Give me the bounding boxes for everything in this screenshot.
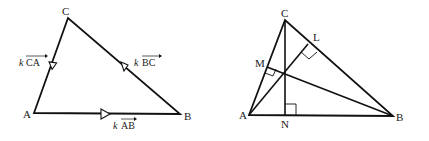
left-vertex-a-label: A <box>23 108 31 120</box>
left-triangle <box>34 18 180 114</box>
svg-text:k: k <box>134 57 139 68</box>
right-triangle-figure: C A B L M N <box>239 7 403 130</box>
svg-text:BC: BC <box>142 57 156 68</box>
foot-m-label: M <box>255 57 265 69</box>
vector-arrow-ca-icon <box>45 54 48 58</box>
right-angle-n-icon <box>285 104 296 115</box>
svg-text:CA: CA <box>26 57 41 68</box>
vector-arrow-bc-icon <box>159 54 162 58</box>
foot-n-label: N <box>281 118 289 130</box>
vector-label-bc: k BC <box>134 54 162 68</box>
left-vertex-c-label: C <box>62 5 69 17</box>
right-vertex-c-label: C <box>281 7 288 19</box>
svg-text:k: k <box>113 120 118 131</box>
right-vertex-b-label: B <box>396 111 403 123</box>
arrow-marker-ab-icon <box>101 109 110 119</box>
altitude-bm <box>267 67 393 116</box>
left-triangle-figure: C A B k CA k BC k AB <box>19 5 191 131</box>
foot-l-label: L <box>313 31 320 43</box>
svg-text:k: k <box>19 57 24 68</box>
right-angle-l-icon <box>301 52 317 59</box>
svg-text:AB: AB <box>121 120 135 131</box>
diagram-canvas: C A B k CA k BC k AB <box>0 0 429 141</box>
right-vertex-a-label: A <box>239 109 247 121</box>
vector-label-ca: k CA <box>19 54 48 68</box>
vector-label-ab: k AB <box>113 117 137 131</box>
left-vertex-b-label: B <box>184 110 191 122</box>
vector-arrow-ab-icon <box>134 117 137 121</box>
